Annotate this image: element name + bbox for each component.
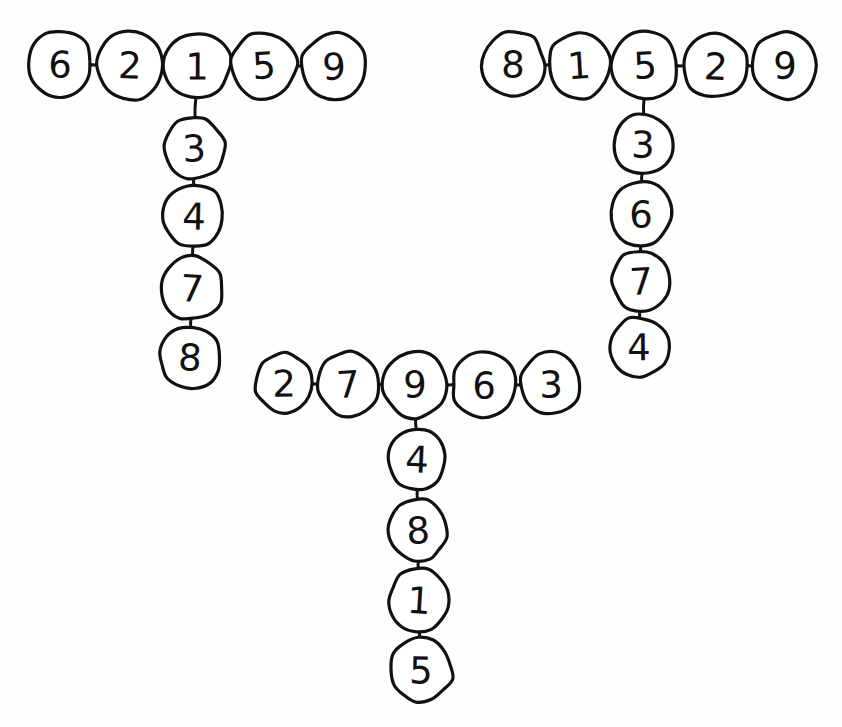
node-graph-diagram: 621593478815293674279634815 (0, 0, 842, 727)
node[interactable]: 7 (612, 252, 670, 312)
node[interactable]: 6 (611, 182, 672, 246)
node[interactable]: 5 (391, 637, 453, 702)
node-label: 1 (406, 579, 432, 623)
node-label: 5 (251, 44, 277, 88)
node-label: 3 (181, 127, 207, 171)
node-label: 1 (566, 44, 592, 88)
node-label: 5 (632, 44, 658, 88)
graphs-layer: 621593478815293674279634815 (29, 31, 817, 702)
node-label: 3 (539, 363, 563, 406)
node[interactable]: 1 (389, 568, 449, 632)
node-label: 7 (335, 363, 361, 407)
node-label: 6 (472, 364, 496, 407)
node[interactable]: 1 (163, 34, 231, 98)
node[interactable]: 5 (611, 31, 676, 99)
node-label: 9 (773, 44, 797, 87)
node-label: 7 (179, 267, 205, 311)
node-label: 1 (185, 45, 209, 88)
node[interactable]: 2 (684, 33, 747, 96)
node[interactable]: 9 (301, 32, 365, 99)
node[interactable]: 7 (161, 255, 221, 319)
node-label: 2 (272, 362, 296, 405)
node[interactable]: 8 (481, 32, 545, 97)
node-label: 9 (403, 363, 427, 406)
node-label: 5 (409, 649, 433, 692)
node[interactable]: 4 (163, 185, 223, 246)
node-label: 8 (501, 43, 525, 86)
node-label: 9 (321, 45, 346, 89)
node-label: 4 (627, 326, 651, 369)
node[interactable]: 2 (255, 352, 312, 413)
node-label: 6 (629, 193, 653, 236)
node-label: 4 (182, 195, 206, 239)
node[interactable]: 6 (453, 352, 515, 418)
node-label: 2 (703, 45, 729, 89)
node-label: 8 (177, 336, 203, 380)
node[interactable]: 4 (610, 317, 669, 377)
node[interactable]: 8 (160, 327, 220, 388)
node[interactable]: 9 (752, 32, 816, 100)
node-label: 8 (405, 509, 431, 553)
node[interactable]: 3 (164, 117, 225, 178)
graph-right-tree: 815293674 (481, 31, 816, 377)
node[interactable]: 2 (97, 31, 163, 100)
graph-bottom-tree: 279634815 (255, 351, 580, 702)
node[interactable]: 8 (388, 499, 447, 561)
node[interactable]: 4 (388, 429, 445, 489)
node-label: 2 (118, 44, 143, 88)
node[interactable]: 7 (317, 351, 378, 417)
node-label: 4 (404, 438, 429, 482)
node-label: 3 (631, 123, 655, 166)
node-label: 6 (48, 43, 73, 87)
node-label: 7 (628, 260, 654, 304)
node[interactable]: 3 (614, 114, 673, 173)
node[interactable]: 9 (382, 351, 447, 419)
node[interactable]: 3 (520, 351, 579, 413)
node[interactable]: 6 (29, 32, 90, 98)
graph-left-tree: 621593478 (29, 31, 366, 389)
node[interactable]: 5 (231, 33, 298, 99)
node[interactable]: 1 (550, 33, 611, 99)
diagram-canvas: 621593478815293674279634815 (0, 0, 842, 727)
